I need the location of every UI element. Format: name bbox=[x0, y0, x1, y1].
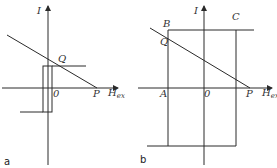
panel-label-a: a bbox=[4, 156, 10, 167]
point-label-q-b: Q bbox=[160, 36, 168, 47]
point-label-b: B bbox=[162, 18, 170, 29]
point-label-q-a: Q bbox=[58, 53, 66, 64]
diagram-canvas: I Hex 0 Q P a I Hex B Q C A 0 P b bbox=[0, 0, 277, 168]
origin-label-b: 0 bbox=[204, 88, 211, 99]
panel-label-b: b bbox=[140, 154, 146, 165]
axis-label-i-b: I bbox=[193, 5, 199, 16]
point-label-p-a: P bbox=[92, 88, 100, 99]
point-label-c: C bbox=[232, 11, 240, 22]
panel-b: I Hex B Q C A 0 P b bbox=[138, 5, 277, 165]
point-label-p-b: P bbox=[245, 88, 253, 99]
panel-a: I Hex 0 Q P a bbox=[2, 5, 125, 167]
axis-label-i-a: I bbox=[36, 5, 42, 16]
origin-label-a: 0 bbox=[53, 88, 60, 99]
axis-label-hex-a: Hex bbox=[107, 87, 125, 100]
point-label-a: A bbox=[159, 88, 167, 99]
axis-label-hex-b: Hex bbox=[261, 87, 277, 100]
